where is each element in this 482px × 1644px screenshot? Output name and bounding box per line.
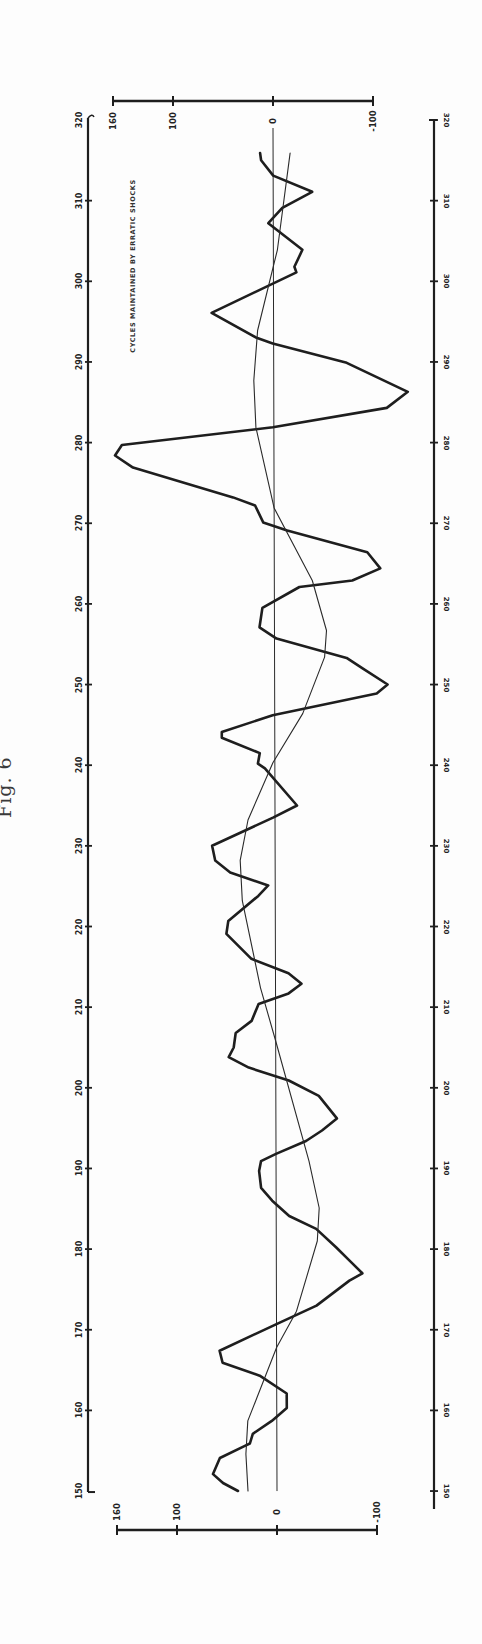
right-time-tick-label: 190 — [442, 1161, 450, 1176]
right-time-tick-label: 200 — [442, 1080, 450, 1095]
bottom-value-scale-label: -100 — [372, 1501, 382, 1522]
top-value-scale-label: -100 — [368, 110, 378, 131]
rotated-line-chart — [0, 0, 482, 1644]
right-time-tick-label: 260 — [442, 597, 450, 612]
right-time-tick-label: 270 — [442, 516, 450, 531]
right-time-tick-label: 210 — [442, 1000, 450, 1015]
axes — [85, 96, 438, 1535]
left-time-tick-label: 210 — [75, 999, 84, 1016]
zero-reference-line — [273, 128, 277, 1491]
bottom-value-scale-label: 160 — [112, 1503, 122, 1521]
right-time-tick-label: 280 — [442, 435, 450, 450]
bottom-value-scale-label: 100 — [172, 1503, 182, 1521]
left-time-tick-label: 320 — [75, 112, 84, 129]
left-time-tick-label: 290 — [75, 354, 84, 371]
figure-page: Fig. 6 CYCLES MAINTAINED BY ERRATIC SHOC… — [0, 0, 482, 1644]
left-time-tick-label: 270 — [75, 515, 84, 532]
zero-line — [273, 128, 277, 1491]
left-time-tick-label: 170 — [75, 1321, 84, 1338]
left-time-tick-label: 200 — [75, 1079, 84, 1096]
left-time-tick-label: 240 — [75, 757, 84, 774]
right-time-tick-label: 170 — [442, 1322, 450, 1337]
left-time-tick-label: 310 — [75, 192, 84, 209]
top-value-scale-label: 160 — [108, 112, 118, 130]
right-time-tick-label: 320 — [442, 113, 450, 128]
right-time-tick-label: 300 — [442, 274, 450, 289]
right-time-tick-label: 290 — [442, 355, 450, 370]
right-time-tick-label: 310 — [442, 193, 450, 208]
heavy-cycle-line — [115, 153, 408, 1491]
right-time-tick-label: 250 — [442, 677, 450, 692]
left-time-tick-label: 220 — [75, 918, 84, 935]
left-time-tick-label: 160 — [75, 1402, 84, 1419]
figure-caption: Fig. 6 — [0, 756, 15, 818]
left-time-tick-label: 180 — [75, 1241, 84, 1258]
chart-annotation: CYCLES MAINTAINED BY ERRATIC SHOCKS — [129, 179, 137, 352]
bottom-value-scale-label: 0 — [272, 1509, 282, 1515]
right-time-tick-label: 180 — [442, 1242, 450, 1257]
right-time-tick-label: 240 — [442, 758, 450, 773]
right-time-tick-label: 160 — [442, 1403, 450, 1418]
right-time-tick-label: 220 — [442, 919, 450, 934]
top-value-scale-label: 100 — [168, 112, 178, 130]
left-time-tick-label: 230 — [75, 837, 84, 854]
right-time-tick-label: 230 — [442, 839, 450, 854]
left-time-tick-label: 250 — [75, 676, 84, 693]
left-time-tick-label: 280 — [75, 434, 84, 451]
right-time-tick-label: 150 — [442, 1484, 450, 1499]
top-value-scale-label: 0 — [268, 118, 278, 124]
data-series — [115, 153, 408, 1491]
left-time-tick-label: 190 — [75, 1160, 84, 1177]
left-time-tick-label: 150 — [75, 1483, 84, 1500]
left-time-tick-label: 300 — [75, 273, 84, 290]
left-time-tick-label: 260 — [75, 596, 84, 613]
